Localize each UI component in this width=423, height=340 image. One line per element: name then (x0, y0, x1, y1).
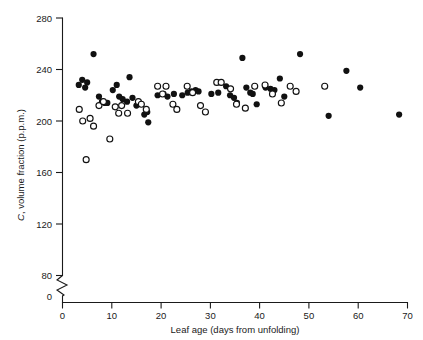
data-point-filled (90, 51, 96, 57)
data-point-open (138, 101, 144, 107)
data-point-filled (124, 99, 130, 105)
data-point-filled (215, 90, 221, 96)
data-point-filled (281, 93, 287, 99)
data-point-open (174, 106, 180, 112)
data-point-open (112, 104, 118, 110)
data-point-filled (343, 68, 349, 74)
y-tick-label: 120 (36, 219, 52, 230)
data-point-open (278, 100, 284, 106)
data-point-filled (326, 113, 332, 119)
data-point-filled (145, 119, 151, 125)
data-point-open (184, 83, 190, 89)
data-points-layer (76, 51, 403, 163)
data-point-open (80, 118, 86, 124)
y-tick-label: 240 (36, 64, 52, 75)
y-axis-title: C, volume fraction (p.p.m.) (15, 109, 26, 221)
data-point-open (287, 83, 293, 89)
data-point-open (322, 83, 328, 89)
data-point-open (262, 82, 268, 88)
y-tick-label: 200 (36, 116, 52, 127)
y-axis-tick-labels: 280 240 200 160 120 80 0 (36, 13, 52, 303)
data-point-open (252, 83, 258, 89)
x-axis-ticks (63, 303, 408, 309)
data-point-filled (357, 84, 363, 90)
data-point-filled (76, 82, 82, 88)
y-axis-break-zigzag (57, 276, 67, 297)
data-point-filled (126, 74, 132, 80)
y-origin-label: 0 (47, 291, 52, 302)
data-point-open (107, 136, 113, 142)
data-point-filled (171, 91, 177, 97)
data-point-open (91, 123, 97, 129)
data-point-filled (297, 51, 303, 57)
data-point-open (228, 86, 234, 92)
data-point-open (119, 103, 125, 109)
data-point-open (116, 110, 122, 116)
data-point-filled (396, 111, 402, 117)
data-point-filled (179, 92, 185, 98)
x-tick-label: 20 (156, 310, 167, 321)
data-point-open (233, 101, 239, 107)
y-tick-label: 280 (36, 13, 52, 24)
data-point-filled (114, 82, 120, 88)
x-tick-label: 60 (353, 310, 364, 321)
y-axis-title-rest: , volume fraction (p.p.m.) (15, 109, 26, 214)
data-point-filled (239, 55, 245, 61)
data-point-open (163, 83, 169, 89)
data-point-filled (129, 95, 135, 101)
x-axis-title: Leaf age (days from unfolding) (171, 324, 300, 335)
data-point-open (293, 88, 299, 94)
chart-figure: 280 240 200 160 120 80 0 0 10 20 30 40 5 (0, 0, 423, 340)
x-axis-tick-labels: 0 10 20 30 40 50 60 70 (60, 310, 413, 321)
y-tick-label: 160 (36, 167, 52, 178)
x-tick-label: 70 (402, 310, 413, 321)
data-point-open (100, 99, 106, 105)
data-point-open (160, 91, 166, 97)
x-tick-label: 50 (304, 310, 315, 321)
data-point-open (190, 90, 196, 96)
x-tick-label: 40 (254, 310, 265, 321)
data-point-open (125, 110, 131, 116)
data-point-filled (110, 87, 116, 93)
data-point-open (242, 105, 248, 111)
data-point-filled (254, 101, 260, 107)
y-tick-label: 80 (41, 270, 52, 281)
data-point-open (202, 109, 208, 115)
data-point-filled (277, 75, 283, 81)
x-tick-label: 0 (60, 310, 65, 321)
x-tick-label: 30 (205, 310, 216, 321)
data-point-open (155, 83, 161, 89)
data-point-filled (243, 84, 249, 90)
data-point-filled (208, 91, 214, 97)
data-point-open (218, 79, 224, 85)
y-axis-ticks (56, 18, 63, 276)
data-point-filled (84, 79, 90, 85)
scatter-plot: 280 240 200 160 120 80 0 0 10 20 30 40 5 (0, 0, 423, 340)
data-point-open (198, 103, 204, 109)
data-point-filled (195, 88, 201, 94)
data-point-open (83, 157, 89, 163)
data-point-open (76, 106, 82, 112)
data-point-open (87, 115, 93, 121)
data-point-open (269, 91, 275, 97)
data-point-open (143, 106, 149, 112)
data-point-filled (250, 91, 256, 97)
x-tick-label: 10 (107, 310, 118, 321)
